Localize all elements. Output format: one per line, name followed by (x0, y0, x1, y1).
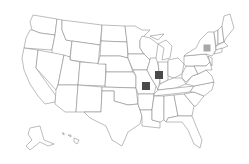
state-arizona (55, 85, 78, 112)
state-wyoming (70, 41, 100, 64)
state-maine (222, 14, 234, 42)
state-alaska (26, 126, 54, 150)
marker-new-york[interactable] (204, 45, 211, 52)
us-map (0, 0, 249, 164)
state-new-york (184, 32, 216, 56)
marker-illinois[interactable] (155, 71, 163, 79)
state-florida (166, 116, 202, 148)
state-kansas (105, 72, 136, 88)
state-arkansas (138, 94, 154, 110)
state-colorado (78, 62, 106, 86)
states (22, 14, 234, 150)
marker-missouri[interactable] (142, 82, 150, 90)
state-mississippi (152, 96, 164, 122)
state-ohio (168, 58, 184, 78)
state-hawaii (62, 133, 79, 144)
state-north-dakota (101, 25, 127, 42)
state-new-mexico (76, 85, 102, 112)
state-south-dakota (100, 41, 128, 58)
